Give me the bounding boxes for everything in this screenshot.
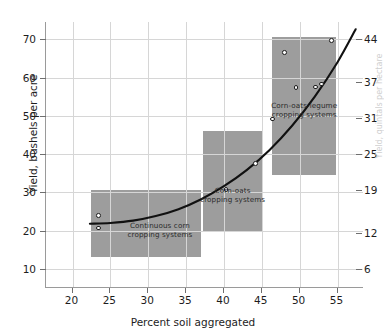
- data-point: [96, 226, 101, 231]
- y-tick-mark-right: [356, 190, 362, 191]
- band-label-corn-oats-legume: Corn-oats-legumecropping systems: [271, 101, 337, 119]
- band-label-line: Corn-oats: [200, 186, 265, 195]
- x-tick-label: 40: [216, 294, 229, 306]
- scatter-chart-figure: Continuous corncropping systemsCorn-oats…: [0, 0, 386, 332]
- band-label-line: cropping systems: [200, 195, 265, 204]
- y-tick-mark-right: [356, 154, 362, 155]
- y-tick-mark: [40, 192, 46, 193]
- data-point: [96, 213, 101, 218]
- y-axis-title: Yield, bushels per acre: [27, 49, 39, 219]
- x-tick-label: 50: [292, 294, 305, 306]
- y-tick-label-right: 12: [364, 227, 377, 239]
- x-tick-mark: [147, 288, 148, 293]
- right-axis-title: Yield, quintals per hectare: [375, 46, 384, 166]
- x-tick-label: 35: [178, 294, 191, 306]
- band-label-line: cropping systems: [127, 230, 192, 239]
- y-tick-mark-right: [356, 82, 362, 83]
- data-point: [329, 38, 334, 43]
- y-tick-label-right: 44: [364, 33, 377, 45]
- band-label-line: Corn-oats-legume: [271, 101, 337, 110]
- x-tick-label: 25: [103, 294, 116, 306]
- y-tick-mark: [40, 78, 46, 79]
- y-tick-mark: [40, 116, 46, 117]
- y-tick-label: 10: [0, 263, 36, 275]
- y-tick-mark: [40, 154, 46, 155]
- x-tick-mark: [223, 288, 224, 293]
- x-tick-mark: [299, 288, 300, 293]
- band-label-corn-oats: Corn-oatscropping systems: [200, 186, 265, 204]
- y-tick-mark: [40, 269, 46, 270]
- data-point: [253, 161, 258, 166]
- y-tick-mark-right: [356, 233, 362, 234]
- y-tick-label-right: 19: [364, 184, 377, 196]
- y-tick-label-right: 6: [364, 263, 371, 275]
- y-tick-mark-right: [356, 269, 362, 270]
- x-tick-label: 20: [65, 294, 78, 306]
- band-label-line: Continuous corn: [127, 221, 192, 230]
- data-point: [319, 82, 324, 87]
- x-tick-mark: [185, 288, 186, 293]
- band-label-line: cropping systems: [271, 110, 337, 119]
- x-tick-mark: [261, 288, 262, 293]
- y-tick-mark: [40, 39, 46, 40]
- band-label-continuous-corn: Continuous corncropping systems: [127, 221, 192, 239]
- y-tick-mark-right: [356, 39, 362, 40]
- plot-area: Continuous corncropping systemsCorn-oats…: [45, 22, 363, 288]
- x-tick-label: 45: [254, 294, 267, 306]
- x-tick-mark: [109, 288, 110, 293]
- y-tick-mark: [40, 231, 46, 232]
- fitted-curve-layer: [46, 22, 364, 288]
- x-tick-mark: [337, 288, 338, 293]
- data-point: [282, 50, 287, 55]
- y-tick-mark-right: [356, 118, 362, 119]
- x-tick-label: 30: [141, 294, 154, 306]
- y-tick-label: 70: [0, 33, 36, 45]
- y-tick-label: 20: [0, 225, 36, 237]
- x-tick-label: 55: [330, 294, 343, 306]
- x-tick-mark: [72, 288, 73, 293]
- x-axis-title: Percent soil aggregated: [0, 316, 386, 328]
- data-point: [313, 85, 318, 90]
- data-point: [294, 85, 299, 90]
